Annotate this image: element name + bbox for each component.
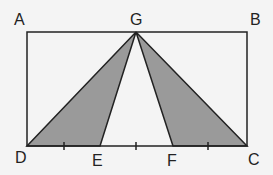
shaded-triangle-gde [27,32,136,146]
label-f: F [167,153,177,169]
label-c: C [248,152,260,168]
geometry-diagram: A G B D E F C [0,0,273,175]
label-g: G [130,12,142,28]
label-b: B [250,12,261,28]
label-d: D [15,150,27,166]
label-e: E [92,153,103,169]
shaded-triangle-gfc [136,32,247,146]
label-a: A [14,12,25,28]
